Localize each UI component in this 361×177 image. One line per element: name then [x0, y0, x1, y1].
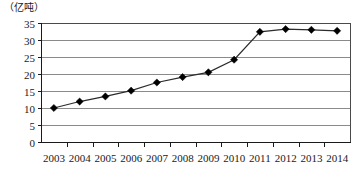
data-point-marker: [128, 87, 135, 94]
x-axis-ticks-group: [68, 143, 325, 147]
data-point-marker: [76, 98, 83, 105]
data-point-marker: [334, 27, 341, 34]
y-tick-label: 35: [24, 18, 36, 30]
x-axis-labels-group: 2003200420052006200720082009201020112012…: [43, 152, 349, 164]
x-tick-label: 2005: [94, 152, 117, 164]
y-tick-label: 15: [24, 86, 36, 98]
x-tick-label: 2007: [146, 152, 169, 164]
x-tick-label: 2004: [69, 152, 92, 164]
data-point-marker: [102, 93, 109, 100]
y-axis-ticks-group: 05101520253035: [24, 18, 42, 149]
x-tick-label: 2008: [172, 152, 195, 164]
x-tick-label: 2003: [43, 152, 66, 164]
x-tick-label: 2010: [223, 152, 246, 164]
plot-frame: [42, 24, 351, 143]
y-tick-label: 10: [24, 103, 36, 115]
x-tick-label: 2013: [300, 152, 323, 164]
y-tick-label: 20: [24, 69, 36, 81]
x-tick-label: 2009: [197, 152, 220, 164]
x-tick-label: 2006: [120, 152, 143, 164]
data-point-marker: [50, 104, 57, 111]
x-tick-label: 2011: [249, 152, 271, 164]
y-tick-label: 30: [24, 35, 36, 47]
x-tick-label: 2014: [326, 152, 349, 164]
chart-figure: （亿吨） 05101520253035 20032004200520062007…: [0, 0, 361, 177]
data-point-marker: [308, 26, 315, 33]
y-tick-label: 25: [24, 52, 36, 64]
plot-area-wrapper: 05101520253035 2003200420052006200720082…: [0, 16, 361, 177]
plot-border: [42, 24, 351, 143]
data-point-marker: [282, 26, 289, 33]
y-tick-label: 5: [30, 120, 36, 132]
line-chart-svg: 05101520253035 2003200420052006200720082…: [0, 16, 361, 177]
y-axis-unit-label: （亿吨）: [4, 2, 44, 14]
data-point-marker: [153, 79, 160, 86]
y-tick-label: 0: [30, 137, 36, 149]
x-tick-label: 2012: [275, 152, 297, 164]
